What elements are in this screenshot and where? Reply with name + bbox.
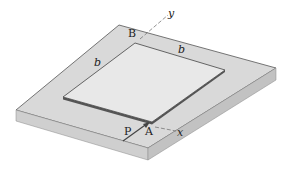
- label-a-point: A: [144, 125, 154, 138]
- label-y-axis: y: [167, 7, 175, 20]
- diagram-canvas: B y b b P A x: [0, 0, 292, 171]
- label-b-top-dimension: b: [178, 43, 185, 56]
- label-p-force: P: [124, 125, 132, 138]
- label-x-axis: x: [177, 126, 184, 139]
- label-b-point: B: [128, 27, 136, 40]
- label-b-left-dimension: b: [94, 56, 101, 69]
